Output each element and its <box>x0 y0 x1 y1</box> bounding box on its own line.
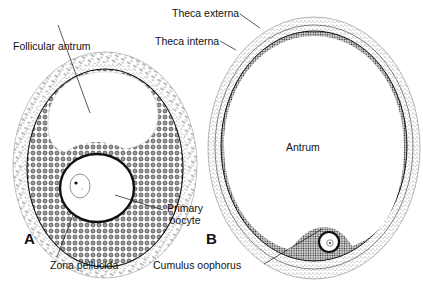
follicle-a-nucleolus <box>74 181 77 184</box>
label-antrum: Antrum <box>286 141 320 153</box>
follicle-diagram: Follicular antrum Primary oocyte Zona pe… <box>0 0 423 288</box>
panel-letter-a: A <box>24 230 35 247</box>
label-primary-oocyte: Primary oocyte <box>163 202 207 226</box>
follicle-a <box>13 25 197 278</box>
leader-theca-externa <box>240 14 260 28</box>
label-theca-externa: Theca externa <box>172 7 239 19</box>
leader-theca-interna <box>220 41 236 50</box>
panel-letter-b: B <box>206 230 217 247</box>
follicle-a-nucleus <box>70 174 90 198</box>
label-primary-oocyte-line2: oocyte <box>163 214 207 226</box>
label-follicular-antrum: Follicular antrum <box>13 40 91 52</box>
label-zona-pellucida: Zona pellucida <box>50 259 118 271</box>
label-cumulus-oophorus: Cumulus oophorus <box>153 259 241 271</box>
label-primary-oocyte-line1: Primary <box>163 202 207 214</box>
label-theca-interna: Theca interna <box>155 35 219 47</box>
